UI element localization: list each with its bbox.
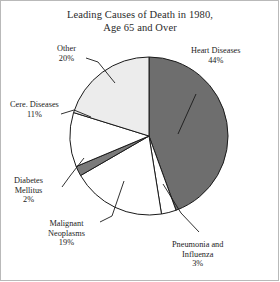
label-malignant-neoplasms-name-2: Neoplasms [48, 229, 85, 239]
label-heart-diseases-value: 44% [191, 56, 241, 66]
label-diabetes-mellitus-value: 2% [14, 195, 43, 205]
label-diabetes-mellitus: Diabetes Mellitus 2% [14, 176, 43, 205]
label-heart-diseases-name: Heart Diseases [191, 46, 241, 56]
label-heart-diseases: Heart Diseases 44% [191, 46, 241, 65]
label-diabetes-mellitus-name-1: Diabetes [14, 176, 43, 186]
label-pneumonia-and-influenza-value: 3% [172, 259, 223, 269]
label-other: Other 20% [57, 44, 76, 63]
label-other-value: 20% [57, 54, 76, 64]
pie-chart [0, 0, 280, 282]
label-diabetes-mellitus-name-2: Mellitus [14, 186, 43, 196]
label-pneumonia-and-influenza-name-1: Pneumonia and [172, 240, 223, 250]
label-cere-diseases-value: 11% [10, 110, 59, 120]
label-malignant-neoplasms-value: 19% [48, 238, 85, 248]
label-malignant-neoplasms-name-1: Malignant [48, 219, 85, 229]
label-pneumonia-and-influenza-name-2: Influenza [172, 250, 223, 260]
label-cere-diseases: Cere. Diseases 11% [10, 100, 59, 119]
label-cere-diseases-name: Cere. Diseases [10, 100, 59, 110]
label-malignant-neoplasms: Malignant Neoplasms 19% [48, 219, 85, 248]
label-other-name: Other [57, 44, 76, 54]
label-pneumonia-and-influenza: Pneumonia and Influenza 3% [172, 240, 223, 269]
